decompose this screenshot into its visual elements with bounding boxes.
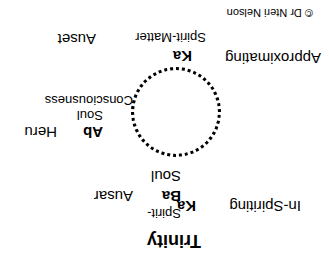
label-ba: Ba (162, 189, 181, 204)
label-in-spiriting: In-Spiriting (229, 199, 301, 214)
label-soul-left: Soul (77, 109, 103, 122)
trinity-diagram: Trinity In-Spiriting Ka Spirit- Ba Ausar… (0, 0, 329, 262)
dotted-circle (131, 67, 221, 157)
copyright-credit: © Dr Ntеri Nelson (227, 7, 313, 18)
label-soul-bottom: Soul (151, 169, 181, 184)
label-ab: Ab (83, 125, 103, 140)
diagram-title: Trinity (147, 232, 201, 250)
label-spirit: Spirit- (147, 207, 181, 220)
label-ausar: Ausar (94, 189, 133, 204)
label-spirit-matter: Spirit-Matter (135, 31, 206, 44)
label-heru: Heru (24, 125, 57, 140)
label-ka-top: Ka (173, 49, 192, 64)
label-approximating: Approximating (225, 51, 321, 66)
label-consciousness: Consciousness (45, 94, 133, 107)
label-auset: Auset (58, 32, 96, 47)
